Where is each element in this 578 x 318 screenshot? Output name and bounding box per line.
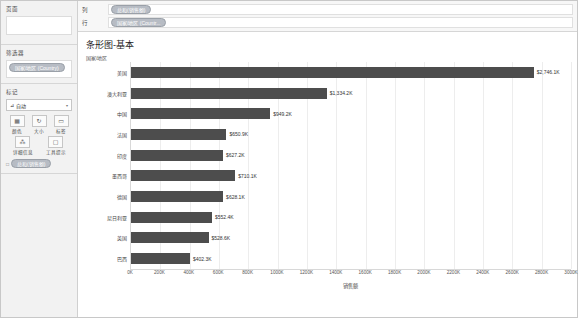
y-axis-label: 英国 [84, 228, 130, 249]
y-axis-label: 法国 [84, 124, 130, 145]
columns-pill-sum-sales[interactable]: 总和(销售额) [111, 5, 151, 14]
bar-value-label: $528.6K [212, 235, 231, 241]
size-icon: ↻ [32, 115, 47, 127]
tableau-worksheet-window: 页面 筛选器 国家/地区 (Country) 标记 ⊿ 自动 ▾ ▦ 颜色 [0, 0, 578, 318]
y-axis-label: 美国 [84, 62, 130, 83]
x-axis-tick-label: 1800K [388, 270, 401, 275]
chart-title: 条形图-基本 [86, 38, 571, 51]
bar-row[interactable]: $528.6K [131, 228, 571, 249]
marks-button-label-label: 标签 [56, 128, 66, 134]
bar[interactable] [131, 253, 190, 264]
filters-panel: 筛选器 国家/地区 (Country) [1, 45, 77, 84]
columns-shelf: 列 总和(销售额) [78, 3, 577, 16]
columns-shelf-label: 列 [82, 6, 108, 14]
y-axis-label: 墨西哥 [84, 166, 130, 187]
bar[interactable] [131, 88, 327, 99]
x-axis-tick-label: 1200K [300, 270, 313, 275]
bar-series: $2,746.1K$1,334.2K$949.2K$650.9K$627.2K$… [131, 62, 571, 269]
bar-row[interactable]: $949.2K [131, 103, 571, 124]
y-axis-label: 印度 [84, 145, 130, 166]
plot-area: $2,746.1K$1,334.2K$949.2K$650.9K$627.2K$… [131, 62, 571, 269]
rows-pill-country[interactable]: 国家/地区 (Countr... [111, 18, 166, 27]
bar[interactable] [131, 170, 235, 181]
bar-row[interactable]: $402.3K [131, 248, 571, 269]
x-axis-tick-label: 2000K [417, 270, 430, 275]
columns-drop-well[interactable]: 总和(销售额) [108, 4, 573, 15]
x-axis-tick-label: 2600K [506, 270, 519, 275]
plot-wrapper: 美国澳大利亚中国法国印度墨西哥德国尼日利亚英国巴西 $2,746.1K$1,33… [84, 62, 571, 269]
y-axis-title: 国家/地区 [86, 54, 571, 61]
x-axis-tick-label: 200K [154, 270, 165, 275]
y-axis-label: 澳大利亚 [84, 83, 130, 104]
x-axis-tick-label: 3000K [564, 270, 577, 275]
bar[interactable] [131, 212, 212, 223]
marks-button-detail[interactable]: ⁂ 详细信息 [6, 136, 39, 155]
bar-value-label: $1,334.2K [330, 90, 353, 96]
shelf-container: 列 总和(销售额) 行 国家/地区 (Countr... [78, 1, 577, 32]
pages-drop-well[interactable] [6, 16, 72, 35]
x-axis-tick-label: 1000K [270, 270, 283, 275]
filter-pill-country[interactable]: 国家/地区 (Country) [9, 63, 65, 72]
bar-value-label: $949.2K [273, 111, 292, 117]
bar-value-label: $402.3K [193, 256, 212, 262]
bar-row[interactable]: $710.1K [131, 166, 571, 187]
marks-button-row-2: ⁂ 详细信息 ▢ 工具提示 [6, 136, 72, 155]
bar-mark-icon: ⊿ [10, 102, 14, 108]
x-axis-tick-label: 0K [127, 270, 133, 275]
marks-button-size[interactable]: ↻ 大小 [28, 115, 50, 134]
bar[interactable] [131, 191, 223, 202]
chevron-down-icon: ▾ [66, 103, 68, 108]
detail-icon: ⁂ [15, 136, 30, 148]
chart-canvas: 条形图-基本 国家/地区 美国澳大利亚中国法国印度墨西哥德国尼日利亚英国巴西 $… [78, 32, 577, 317]
y-axis-label: 尼日利亚 [84, 207, 130, 228]
bar[interactable] [131, 150, 223, 161]
x-axis-title: 销售额 [130, 282, 571, 289]
y-axis-label: 中国 [84, 103, 130, 124]
marks-button-detail-label: 详细信息 [13, 149, 33, 155]
y-axis-label: 巴西 [84, 248, 130, 269]
bar-row[interactable]: $1,334.2K [131, 83, 571, 104]
main-area: 列 总和(销售额) 行 国家/地区 (Countr... 条形图-基本 国家/地… [78, 1, 577, 317]
marks-button-color-label: 颜色 [12, 128, 22, 134]
bar-value-label: $710.1K [238, 173, 257, 179]
rows-shelf-label: 行 [82, 19, 108, 27]
bar[interactable] [131, 108, 270, 119]
marks-title: 标记 [6, 88, 72, 96]
x-axis-tick-label: 2200K [447, 270, 460, 275]
pages-title: 页面 [6, 5, 72, 13]
sidebar-empty-space [1, 174, 77, 317]
rows-drop-well[interactable]: 国家/地区 (Countr... [108, 17, 573, 28]
y-axis-label: 德国 [84, 186, 130, 207]
filters-title: 筛选器 [6, 49, 72, 57]
marks-panel: 标记 ⊿ 自动 ▾ ▦ 颜色 ↻ 大小 ▭ 标签 [1, 84, 77, 174]
bar-value-label: $627.2K [226, 152, 245, 158]
marks-button-tooltip[interactable]: ▢ 工具提示 [39, 136, 72, 155]
bar-row[interactable]: $627.2K [131, 145, 571, 166]
bar-row[interactable]: $552.4K [131, 207, 571, 228]
marks-button-row-1: ▦ 颜色 ↻ 大小 ▭ 标签 [6, 115, 72, 134]
x-axis-tick-label: 2400K [476, 270, 489, 275]
bar-row[interactable]: $2,746.1K [131, 62, 571, 83]
x-axis: 0K200K400K600K800K1000K1200K1400K1600K18… [130, 269, 571, 281]
bar-row[interactable]: $628.1K [131, 186, 571, 207]
bar-row[interactable]: $650.9K [131, 124, 571, 145]
marks-type-select[interactable]: ⊿ 自动 ▾ [6, 99, 72, 111]
marks-button-label[interactable]: ▭ 标签 [50, 115, 72, 134]
x-axis-tick-label: 400K [183, 270, 194, 275]
filters-drop-well[interactable]: 国家/地区 (Country) [6, 60, 72, 78]
bar-value-label: $2,746.1K [537, 69, 560, 75]
marks-button-color[interactable]: ▦ 颜色 [6, 115, 28, 134]
label-icon: ▭ [54, 115, 69, 127]
bar-value-label: $552.4K [215, 214, 234, 220]
marks-pill-sum-sales[interactable]: 总和(销售额) [11, 159, 51, 168]
bar[interactable] [131, 232, 209, 243]
measure-square-icon: □ [6, 161, 9, 167]
marks-button-tooltip-label: 工具提示 [46, 149, 66, 155]
bar[interactable] [131, 67, 534, 78]
marks-button-size-label: 大小 [34, 128, 44, 134]
x-axis-tick-label: 1600K [359, 270, 372, 275]
gridline [571, 62, 572, 269]
bar[interactable] [131, 129, 226, 140]
marks-type-label: 自动 [16, 102, 26, 109]
pages-panel: 页面 [1, 1, 77, 45]
